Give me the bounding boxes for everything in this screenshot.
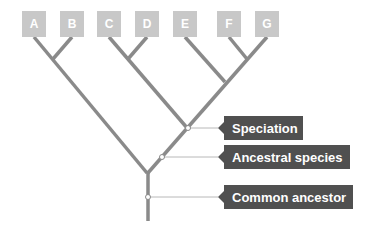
- ancestral-species-label: Ancestral species: [224, 145, 350, 169]
- taxon-b: B: [60, 11, 84, 37]
- speciation-node: [186, 126, 191, 131]
- common-ancestor-node: [146, 195, 151, 200]
- branch-d: [128, 37, 147, 59]
- branch-e: [185, 37, 225, 82]
- taxon-f: F: [217, 11, 241, 37]
- taxon-d: D: [135, 11, 159, 37]
- taxon-a: A: [22, 11, 46, 37]
- speciation-label: Speciation: [224, 116, 303, 140]
- taxon-e: E: [173, 11, 197, 37]
- branch-b: [53, 37, 72, 59]
- taxon-c: C: [97, 11, 121, 37]
- branch-c: [109, 37, 188, 129]
- common-ancestor-label: Common ancestor: [224, 185, 353, 209]
- ancestral-species-node: [160, 155, 165, 160]
- taxon-g: G: [255, 11, 279, 37]
- branch-f: [229, 37, 247, 59]
